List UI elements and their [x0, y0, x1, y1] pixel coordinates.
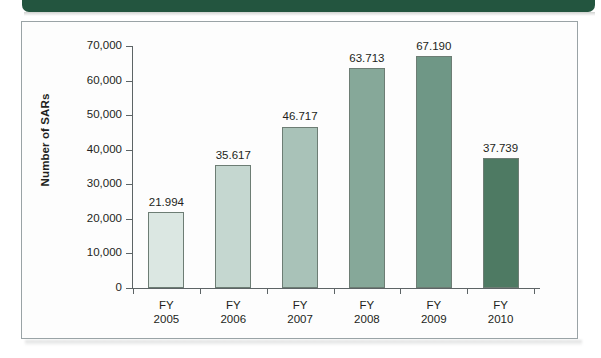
bar: [416, 56, 452, 288]
x-axis-tick-mark: [200, 289, 201, 294]
x-axis-category-label: FY2008: [332, 298, 402, 326]
y-axis-tick-label: 20,000: [60, 213, 122, 225]
y-axis-tick-labels: 010,00020,00030,00040,00050,00060,00070,…: [56, 22, 122, 340]
y-axis-tick-label: 0: [60, 282, 122, 294]
plot-area: [133, 46, 534, 288]
y-axis-tick-label: 60,000: [60, 75, 122, 87]
bar-value-label: 63.713: [330, 52, 404, 64]
x-axis-category-label: FY2010: [466, 298, 536, 326]
x-axis-category-label: FY2007: [265, 298, 335, 326]
x-axis-line: [132, 288, 540, 289]
x-axis-tick-mark: [334, 289, 335, 294]
y-axis-tick-label: 50,000: [60, 109, 122, 121]
y-axis-title: Number of SARs: [39, 75, 51, 205]
x-axis-tick-mark: [133, 289, 134, 294]
bar: [483, 158, 519, 288]
chart-panel: Number of SARs 010,00020,00030,00040,000…: [21, 21, 578, 339]
x-axis-category-label: FY2005: [131, 298, 201, 326]
bar-value-label: 67.190: [397, 40, 471, 52]
bar: [349, 68, 385, 288]
y-axis-tick-label: 70,000: [60, 40, 122, 52]
panel-shadow: [25, 340, 582, 346]
bar-chart: Number of SARs 010,00020,00030,00040,000…: [22, 22, 579, 340]
x-axis-tick-mark: [400, 289, 401, 294]
banner-shadow: [24, 12, 595, 16]
x-axis-tick-mark: [267, 289, 268, 294]
bar-value-label: 46.717: [263, 110, 337, 122]
bar: [282, 127, 318, 289]
bar-value-label: 37.739: [464, 142, 538, 154]
bar-value-label: 21.994: [129, 196, 203, 208]
x-axis-category-label: FY2006: [198, 298, 268, 326]
y-axis-tick-label: 10,000: [60, 247, 122, 259]
bar: [215, 165, 251, 288]
bar-value-label: 35.617: [196, 149, 270, 161]
y-axis-tick-label: 30,000: [60, 178, 122, 190]
x-axis-tick-mark: [534, 289, 535, 294]
x-axis-category-label: FY2009: [399, 298, 469, 326]
page-banner-strip: [22, 0, 595, 12]
y-axis-tick-label: 40,000: [60, 144, 122, 156]
bar: [148, 212, 184, 288]
x-axis-tick-mark: [467, 289, 468, 294]
